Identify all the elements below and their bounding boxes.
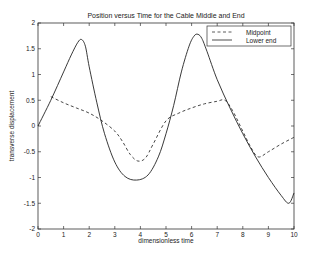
x-tick-label: 9 xyxy=(267,231,271,238)
y-tick-label: -1 xyxy=(29,174,35,181)
x-tick-label: 2 xyxy=(87,231,91,238)
line-chart: Position versus Time for the Cable Middl… xyxy=(0,0,310,254)
y-tick-label: 0 xyxy=(31,122,35,129)
legend-label-midpoint: Midpoint xyxy=(246,29,271,37)
y-axis-label: transverse displacement xyxy=(8,91,16,162)
y-tick-label: 2 xyxy=(31,19,35,26)
y-tick-label: 0.5 xyxy=(26,97,35,104)
x-tick-label: 0 xyxy=(36,231,40,238)
x-tick-label: 3 xyxy=(113,231,117,238)
x-tick-label: 1 xyxy=(62,231,66,238)
y-tick-label: -0.5 xyxy=(24,148,36,155)
y-tick-label: 1 xyxy=(31,71,35,78)
legend: Midpoint Lower end xyxy=(207,26,291,46)
y-tick-label: -1.5 xyxy=(24,200,36,207)
x-tick-label: 7 xyxy=(215,231,219,238)
x-axis-label: dimensionless time xyxy=(138,237,194,244)
x-tick-label: 10 xyxy=(290,231,298,238)
y-tick-label: -2 xyxy=(29,225,35,232)
legend-label-lower-end: Lower end xyxy=(246,37,277,44)
y-tick-label: 1.5 xyxy=(26,45,35,52)
plot-area xyxy=(38,23,294,229)
chart-title: Position versus Time for the Cable Middl… xyxy=(87,12,244,19)
x-tick-label: 8 xyxy=(241,231,245,238)
